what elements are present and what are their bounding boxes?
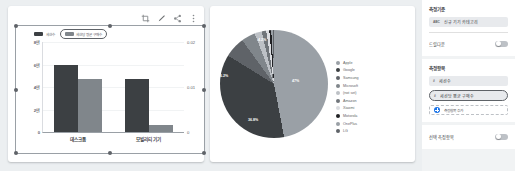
metric-chip-sessions[interactable]: # 세션수 — [429, 76, 508, 86]
y-axis-tick-right: 0.02 — [187, 40, 195, 45]
bar-chart-widget[interactable]: 세션수 세션당 평균 구매수 0 2만 4만 6만 8만 — [8, 6, 204, 162]
selected-metric-label: 선택 측정항목 — [429, 134, 454, 140]
selected-metric-panel: 선택 측정항목 — [422, 125, 515, 149]
bar-sessions[interactable] — [54, 65, 78, 133]
legend-label: (not set) — [343, 91, 357, 95]
metric-panel: 측정항목 # 세션수 # 세션당 평균 구매수 측정항목 추가 — [422, 59, 515, 122]
legend-label: OnePlus — [343, 122, 357, 126]
chip-label: 신규 기기 카테고리 — [444, 19, 478, 25]
edit-pencil-icon[interactable] — [157, 14, 166, 23]
legend-dot — [336, 68, 340, 72]
report-canvas[interactable]: 세션수 세션당 평균 구매수 0 2만 4만 6만 8만 — [0, 0, 422, 171]
dimension-section-title: 측정기준 — [429, 6, 508, 12]
pie-data-label-google: 36.8% — [248, 118, 258, 122]
y-axis-tick-left: 4만 — [34, 84, 40, 90]
x-axis-tick: 데스크톱 — [70, 136, 86, 142]
legend-label: Motorola — [343, 114, 357, 118]
divider — [429, 32, 508, 33]
drilldown-row[interactable]: 드릴다운 — [429, 38, 508, 49]
crop-icon[interactable] — [141, 14, 150, 23]
selected-metric-toggle[interactable] — [495, 134, 508, 140]
selected-metric-row[interactable]: 선택 측정항목 — [429, 131, 508, 142]
legend-item[interactable]: Xiaomi — [336, 105, 408, 113]
legend-item[interactable]: Apple — [336, 59, 408, 67]
share-icon[interactable] — [173, 14, 182, 23]
widget-toolbar[interactable] — [141, 12, 198, 24]
drilldown-toggle[interactable] — [495, 41, 508, 47]
legend-label: Microsoft — [343, 84, 358, 88]
bar-group-mobile[interactable] — [114, 42, 185, 132]
legend-dot — [336, 99, 340, 103]
config-sidebar[interactable]: 측정기준 ABC 신규 기기 카테고리 드릴다운 측정항목 # 세션수 # 세션… — [422, 0, 515, 171]
pie-data-label-microsoft: 4.2% — [258, 38, 266, 42]
legend-dot — [336, 106, 340, 110]
add-metric-button[interactable]: 측정항목 추가 — [429, 105, 508, 115]
legend-item[interactable]: LG — [336, 127, 408, 135]
legend-item[interactable]: Amazon — [336, 97, 408, 105]
legend-swatch — [65, 32, 74, 36]
legend-label: 세션수 — [46, 32, 55, 37]
more-vertical-icon[interactable] — [189, 14, 198, 23]
legend-item-avg-purchases[interactable]: 세션당 평균 구매수 — [60, 29, 108, 39]
legend-dot — [336, 114, 340, 118]
legend-swatch — [34, 32, 43, 36]
metric-section-title: 측정항목 — [429, 65, 508, 71]
bar-group-desktop[interactable] — [43, 42, 114, 132]
bar-avg-purchases[interactable] — [78, 79, 102, 132]
legend-dot — [336, 76, 340, 80]
hash-badge: # — [434, 94, 436, 98]
toggle-knob — [496, 41, 501, 46]
bar-sessions[interactable] — [125, 79, 149, 132]
legend-item[interactable]: OnePlus — [336, 120, 408, 128]
y-axis-tick-left: 8만 — [34, 39, 40, 45]
pie-graphic[interactable] — [220, 30, 328, 138]
pie-data-label-samsung: 6.2% — [220, 74, 228, 78]
report-editor: 세션수 세션당 평균 구매수 0 2만 4만 6만 8만 — [0, 0, 515, 171]
x-axis-tick: 모빌리티 기기 — [136, 136, 161, 142]
legend-item[interactable]: Samsung — [336, 74, 408, 82]
dimension-panel: 측정기준 ABC 신규 기기 카테고리 드릴다운 — [422, 0, 515, 56]
abc-badge: ABC — [433, 20, 440, 24]
chip-label: 세션수 — [439, 78, 451, 84]
dimension-chip-device-category[interactable]: ABC 신규 기기 카테고리 — [429, 17, 508, 27]
legend-label: LG — [343, 129, 348, 133]
drilldown-label: 드릴다운 — [429, 41, 445, 47]
legend-dot — [336, 91, 340, 95]
bar-avg-purchases[interactable] — [149, 125, 173, 132]
legend-dot — [336, 84, 340, 88]
bar-chart[interactable]: 세션수 세션당 평균 구매수 0 2만 4만 6만 8만 — [16, 26, 204, 153]
chip-label: 세션당 평균 구매수 — [440, 93, 474, 99]
legend-item[interactable]: Microsoft — [336, 82, 408, 90]
bar-plot-area: 0 2만 4만 6만 8만 0 0.01 0.02 — [42, 42, 184, 133]
legend-dot — [336, 129, 340, 133]
legend-label: Samsung — [343, 76, 359, 80]
pie-data-label-apple: 47% — [292, 79, 299, 83]
bar-series-container — [43, 42, 184, 132]
sidebar-filler — [422, 152, 515, 171]
legend-item[interactable]: Motorola — [336, 112, 408, 120]
legend-label: Xiaomi — [343, 106, 354, 110]
legend-label: Amazon — [343, 99, 357, 103]
legend-item[interactable]: (not set) — [336, 89, 408, 97]
legend-label: 세션당 평균 구매수 — [76, 32, 102, 37]
y-axis-tick-left: 0 — [38, 130, 40, 135]
y-axis-tick-right: 0 — [187, 130, 189, 135]
legend-item-sessions[interactable]: 세션수 — [34, 32, 55, 37]
legend-label: Google — [343, 68, 355, 72]
metric-chip-avg-purchases[interactable]: # 세션당 평균 구매수 — [429, 90, 508, 101]
legend-item[interactable]: Google — [336, 67, 408, 75]
legend-dot — [336, 122, 340, 126]
bar-chart-legend: 세션수 세션당 평균 구매수 — [34, 29, 107, 39]
hash-badge: # — [433, 79, 435, 83]
legend-label: Apple — [343, 61, 352, 65]
pie-chart[interactable]: 47% 36.8% 6.2% 4.2% — [214, 16, 334, 152]
pie-chart-widget[interactable]: 47% 36.8% 6.2% 4.2% Apple Google Samsung… — [210, 6, 415, 162]
y-axis-tick-right: 0.01 — [187, 85, 195, 90]
plus-icon — [434, 107, 440, 113]
add-metric-label: 측정항목 추가 — [444, 108, 463, 113]
toggle-knob — [496, 134, 501, 139]
legend-dot — [336, 61, 340, 65]
y-axis-tick-left: 2만 — [34, 107, 40, 113]
y-axis-tick-left: 6만 — [34, 62, 40, 68]
pie-chart-legend: Apple Google Samsung Microsoft (not set)… — [336, 59, 408, 135]
